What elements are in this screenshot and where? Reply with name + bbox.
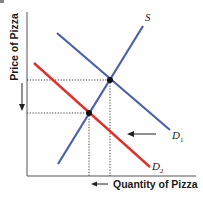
demand2-label: D2 [152,160,163,175]
demand-curve-d1 [57,33,170,130]
demand1-label: D1 [172,129,183,144]
shift-left-arrow-icon [127,131,156,137]
equilibrium-point-1 [107,77,113,83]
supply-label: S [145,11,151,23]
equilibrium-point-2 [86,110,92,116]
y-axis-label: Price of Pizza [4,12,24,82]
x-axis-label: Quantity of Pizza [113,178,198,190]
supply-demand-chart [0,0,203,197]
price-down-arrow-icon [19,83,25,111]
quantity-left-arrow-icon [91,182,108,187]
demand-curve-d2 [34,63,150,167]
